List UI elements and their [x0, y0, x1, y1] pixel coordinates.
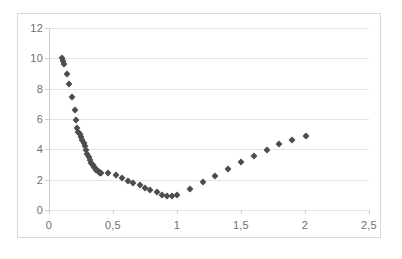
- chart-frame: 024681012 00,511,522,5: [17, 13, 381, 238]
- x-axis-tick-label: 2,5: [349, 220, 389, 231]
- data-point: [61, 60, 68, 67]
- y-axis-tick-label: 2: [13, 175, 43, 186]
- x-axis-tick-label: 0,5: [93, 220, 133, 231]
- data-point: [186, 185, 193, 192]
- data-point: [71, 106, 78, 113]
- gridline-horizontal: [49, 210, 369, 211]
- data-point: [212, 172, 219, 179]
- y-axis-tick-label: 6: [13, 114, 43, 125]
- y-axis-tick-label: 4: [13, 144, 43, 155]
- data-point: [225, 165, 232, 172]
- x-tick-mark: [369, 210, 370, 214]
- x-axis-tick-label: 1: [157, 220, 197, 231]
- data-point: [237, 159, 244, 166]
- data-point: [66, 81, 73, 88]
- x-tick-mark: [49, 210, 50, 214]
- data-point: [289, 136, 296, 143]
- x-axis-tick-label: 2: [285, 220, 325, 231]
- y-axis-tick-label: 10: [13, 53, 43, 64]
- x-tick-mark: [177, 210, 178, 214]
- x-axis-tick-label: 1,5: [221, 220, 261, 231]
- y-axis-tick-label: 8: [13, 84, 43, 95]
- plot-area: [49, 28, 369, 210]
- data-point: [72, 117, 79, 124]
- data-point: [173, 192, 180, 199]
- x-axis-tick-label: 0: [29, 220, 69, 231]
- y-axis-tick-label: 0: [13, 205, 43, 216]
- data-point: [68, 93, 75, 100]
- x-tick-mark: [305, 210, 306, 214]
- x-tick-mark: [113, 210, 114, 214]
- x-tick-mark: [241, 210, 242, 214]
- data-point: [199, 178, 206, 185]
- data-point: [263, 146, 270, 153]
- data-point: [63, 70, 70, 77]
- chart-screenshot: 024681012 00,511,522,5: [0, 0, 402, 259]
- data-point: [303, 132, 310, 139]
- data-point: [250, 152, 257, 159]
- data-point: [276, 141, 283, 148]
- y-axis-tick-label: 12: [13, 23, 43, 34]
- data-point: [104, 170, 111, 177]
